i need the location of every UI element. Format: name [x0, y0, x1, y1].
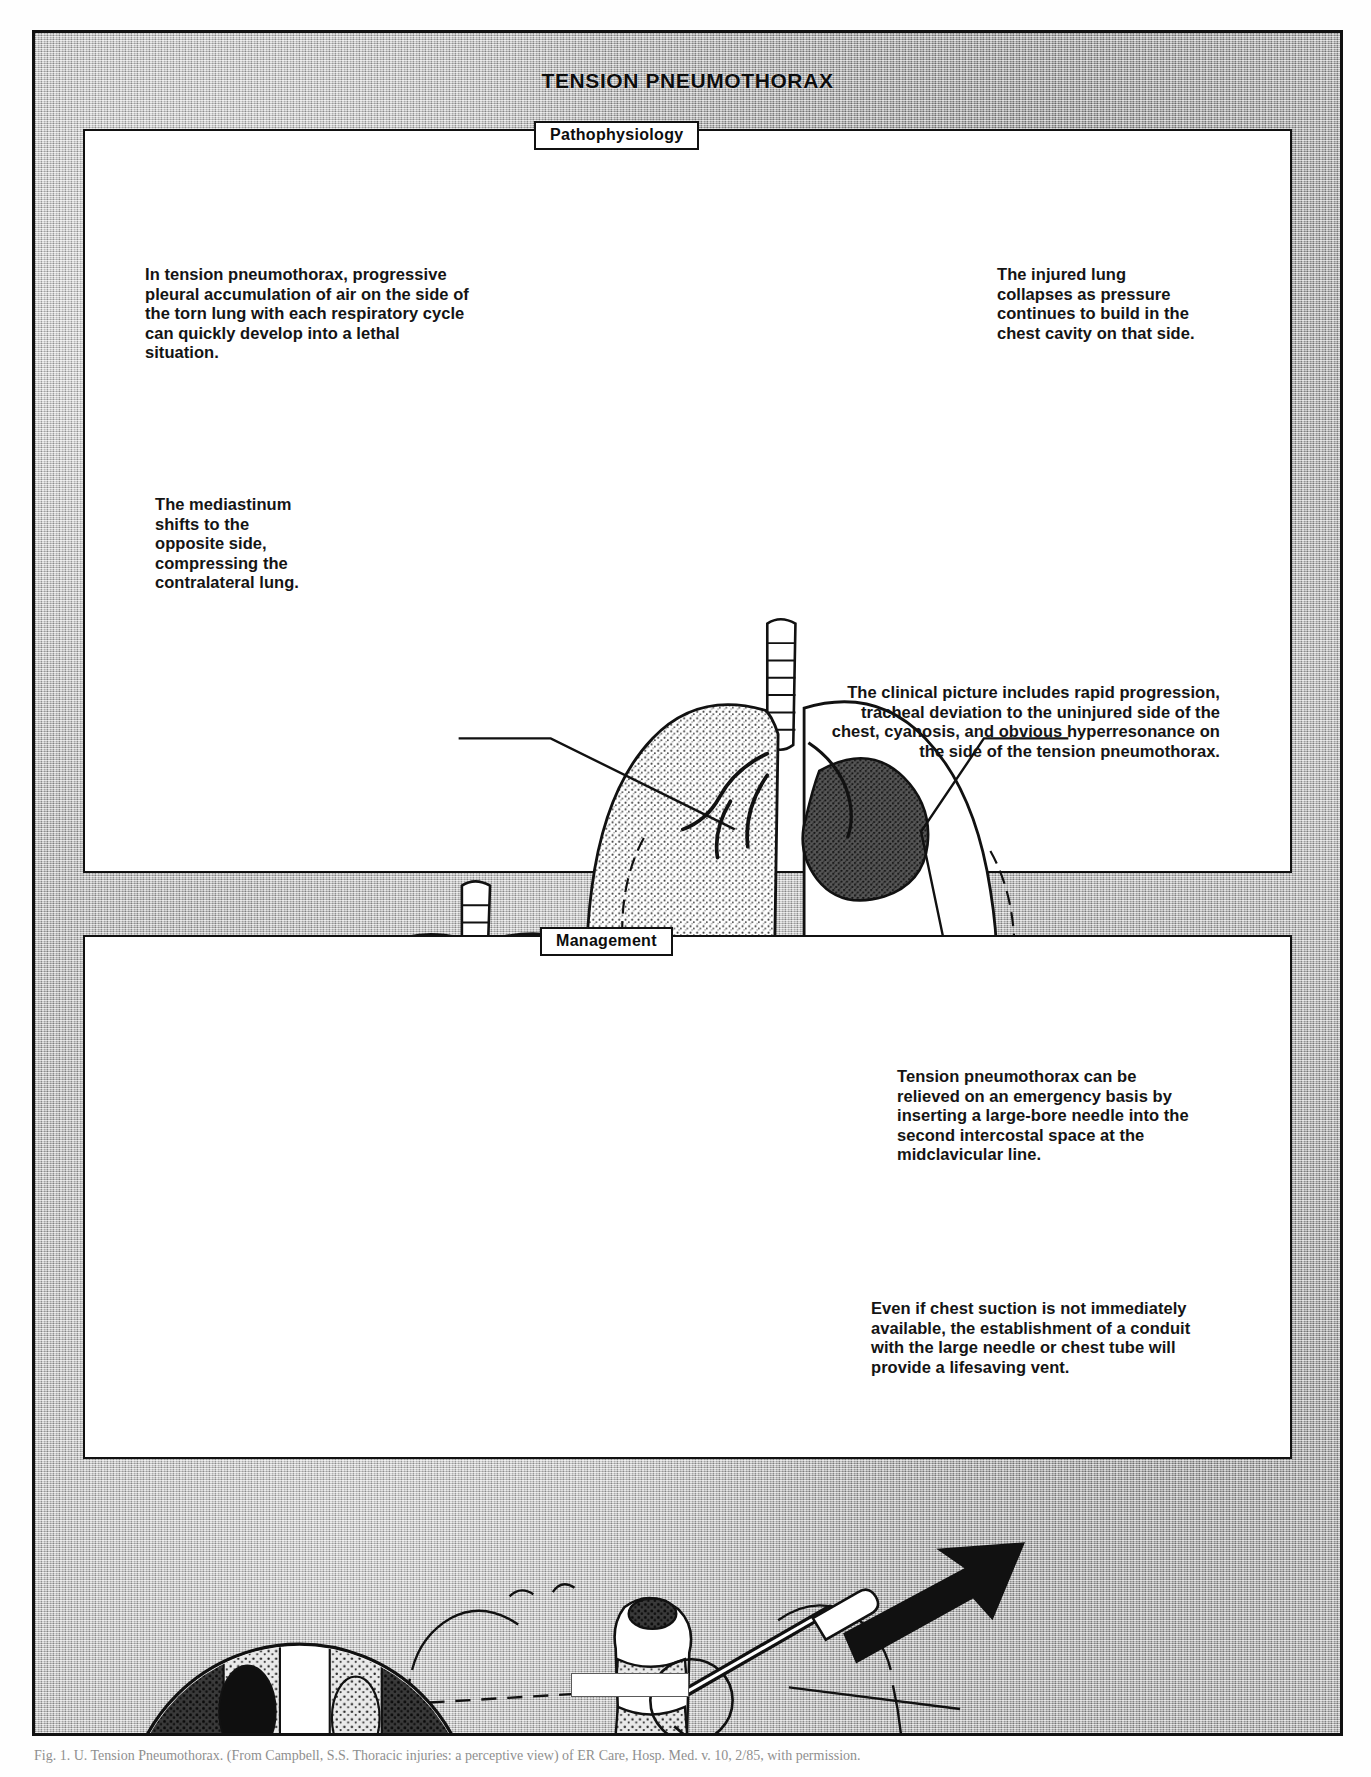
scanned-figure-page: TENSION PNEUMOTHORAX: [0, 0, 1371, 1777]
note-progressive-accumulation: In tension pneumothorax, progressive ple…: [145, 265, 475, 363]
note-needle-decompression: Tension pneumothorax can be relieved on …: [897, 1067, 1197, 1165]
management-label: Management: [540, 927, 673, 956]
note-injured-lung-collapse: The injured lung collapses as pressure c…: [997, 265, 1202, 343]
pathophysiology-label: Pathophysiology: [534, 121, 699, 150]
management-panel: [83, 935, 1292, 1459]
figure-title: TENSION PNEUMOTHORAX: [35, 69, 1340, 93]
white-slug-mark: [571, 1673, 689, 1697]
note-conduit-vent: Even if chest suction is not immediately…: [871, 1299, 1191, 1377]
trachea-upper: [767, 619, 795, 750]
note-clinical-picture: The clinical picture includes rapid prog…: [830, 683, 1220, 761]
leader-progressive: [459, 738, 735, 829]
note-mediastinal-shift: The mediastinum shifts to the opposite s…: [155, 495, 315, 593]
figure-plate: TENSION PNEUMOTHORAX: [32, 30, 1343, 1736]
figure-caption: Fig. 1. U. Tension Pneumothorax. (From C…: [34, 1748, 1334, 1764]
